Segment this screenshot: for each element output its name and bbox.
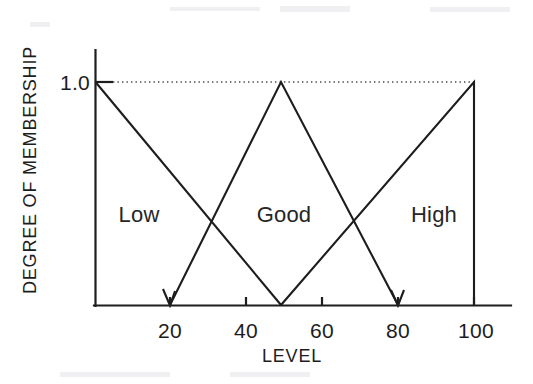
region-label-low: Low: [119, 202, 160, 227]
region-label-good: Good: [257, 202, 312, 227]
x-tick-label-20: 20: [158, 319, 182, 342]
region-label-high: High: [411, 202, 457, 227]
x-tick-label-40: 40: [234, 319, 258, 342]
y-tick-label-1.0: 1.0: [60, 71, 90, 94]
x-tick-label-100: 100: [458, 319, 494, 342]
y-axis-title: DEGREE OF MEMBERSHIP: [20, 46, 40, 294]
x-tick-label-80: 80: [386, 319, 410, 342]
plot-canvas: 1.0 20 40 60 80 100 LEVEL DEGREE OF MEMB…: [0, 0, 533, 384]
membership-curve-low: [96, 82, 282, 305]
x-tick-label-60: 60: [310, 319, 334, 342]
fuzzy-membership-chart: 1.0 20 40 60 80 100 LEVEL DEGREE OF MEMB…: [0, 0, 533, 384]
membership-curve-good: [170, 82, 398, 305]
membership-curve-high: [281, 82, 474, 305]
x-axis-title: LEVEL: [262, 346, 322, 366]
